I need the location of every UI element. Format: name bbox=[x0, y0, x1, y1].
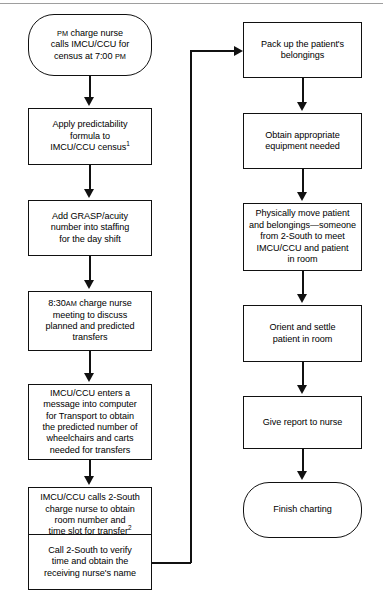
node-label: Pack up the patient'sbelongings bbox=[261, 39, 344, 62]
connector-n10-n11 bbox=[302, 271, 304, 296]
connector-riser-to-n8 bbox=[190, 50, 236, 52]
arrowhead-n9-n10 bbox=[297, 192, 307, 201]
node-label: IMCU/CCU calls 2-Southcharge nurse to ob… bbox=[40, 492, 139, 538]
node-label: Finish charting bbox=[273, 504, 331, 515]
connector-n1-n2 bbox=[89, 76, 91, 99]
footnote-marker-2: 2 bbox=[128, 524, 132, 531]
connector-n4-n5 bbox=[89, 351, 91, 375]
node-pm-charge-nurse-call[interactable]: PM charge nursecalls IMCU/CCU forcensus … bbox=[28, 14, 152, 76]
node-label: 8:30AM charge nursemeeting to discusspla… bbox=[46, 298, 135, 344]
node-call-2south-verify[interactable]: Call 2-South to verifytime and obtain th… bbox=[28, 534, 152, 590]
scan-artifact-line bbox=[0, 3, 383, 4]
arrowhead-n3-n4 bbox=[84, 280, 94, 289]
connector-n3-n4 bbox=[89, 256, 91, 282]
node-add-grasp-acuity[interactable]: Add GRASP/acuitynumber into staffingfor … bbox=[28, 200, 152, 256]
node-obtain-equipment[interactable]: Obtain appropriateequipment needed bbox=[243, 113, 362, 169]
connector-n7-riser-horizontal bbox=[152, 562, 191, 564]
arrowhead-n1-n2 bbox=[84, 97, 94, 106]
node-pack-up-belongings[interactable]: Pack up the patient'sbelongings bbox=[243, 22, 362, 78]
arrowhead-n8-n9 bbox=[297, 102, 307, 111]
connector-n8-n9 bbox=[302, 78, 304, 104]
node-label: Add GRASP/acuitynumber into staffingfor … bbox=[51, 211, 130, 245]
arrowhead-n2-n3 bbox=[84, 189, 94, 198]
node-label: Physically move patientand belongings—so… bbox=[249, 208, 356, 265]
node-label: Call 2-South to verifytime and obtain th… bbox=[44, 545, 136, 579]
node-label: Orient and settlepatient in room bbox=[270, 322, 336, 345]
arrowhead-n11-n12 bbox=[297, 385, 307, 394]
node-label: Obtain appropriateequipment needed bbox=[265, 130, 340, 153]
node-label: Apply predictabilityformula toIMCU/CCU c… bbox=[50, 119, 130, 153]
node-apply-predictability-formula[interactable]: Apply predictabilityformula toIMCU/CCU c… bbox=[28, 108, 152, 165]
node-label: Give report to nurse bbox=[263, 417, 342, 428]
flowchart-canvas: PM charge nursecalls IMCU/CCU forcensus … bbox=[0, 0, 383, 605]
node-imcu-message-transport[interactable]: IMCU/CCU enters amessage into computerfo… bbox=[28, 384, 152, 460]
arrowhead-n12-n13 bbox=[297, 471, 307, 480]
node-orient-settle-patient[interactable]: Orient and settlepatient in room bbox=[243, 305, 362, 362]
node-label: IMCU/CCU enters amessage into computerfo… bbox=[43, 388, 138, 456]
node-physically-move-patient[interactable]: Physically move patientand belongings—so… bbox=[243, 203, 362, 271]
connector-n7-riser-vertical bbox=[190, 50, 192, 563]
connector-n9-n10 bbox=[302, 169, 304, 194]
node-830am-charge-nurse-meeting[interactable]: 8:30AM charge nursemeeting to discusspla… bbox=[28, 291, 152, 351]
connector-n2-n3 bbox=[89, 165, 91, 191]
footnote-marker-1: 1 bbox=[126, 140, 130, 147]
node-finish-charting[interactable]: Finish charting bbox=[243, 482, 362, 538]
arrowhead-n5-n6 bbox=[84, 476, 94, 485]
connector-n12-n13 bbox=[302, 449, 304, 473]
node-label: PM charge nursecalls IMCU/CCU forcensus … bbox=[51, 28, 129, 62]
arrowhead-n4-n5 bbox=[84, 373, 94, 382]
node-give-report-to-nurse[interactable]: Give report to nurse bbox=[243, 396, 362, 449]
arrowhead-n10-n11 bbox=[297, 294, 307, 303]
arrowhead-riser-to-n8 bbox=[234, 46, 243, 56]
connector-n11-n12 bbox=[302, 362, 304, 387]
